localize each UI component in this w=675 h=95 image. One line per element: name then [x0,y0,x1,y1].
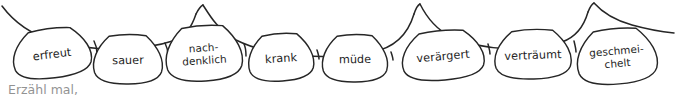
connector-4 [317,50,319,59]
garland-tag: verärgert [400,27,486,83]
garland-tag: geschmei-chelt [574,25,659,87]
connector-5 [391,52,393,60]
tag-sauer-line-0: sauer [112,54,144,68]
string-peak-2 [414,4,420,14]
garland-tag: müde [322,34,388,83]
tag-vertraeumt-label: verträumt [504,48,562,63]
caption-cropped-region: Erzähl mal, [0,84,675,95]
garland-tag: erfreut [10,24,94,83]
tag-vertraeumt-line-0: verträumt [504,48,562,63]
string-peak-1 [196,5,203,14]
garland-tag: verträumt [494,28,572,80]
tag-krank-label: krank [265,51,298,66]
garland-illustration: erfreutsauernach-denklichkrankmüdeverärg… [0,0,675,95]
garland-tag: sauer [93,34,163,85]
connector-7 [574,41,576,52]
garland-tag: krank [247,31,315,83]
caption-text: Erzähl mal, [8,84,78,95]
garland-tags-layer: erfreutsauernach-denklichkrankmüdeverärg… [10,23,659,87]
string-peak-3 [588,3,594,12]
tag-geschmeichelt-line-1: chelt [604,56,631,70]
tag-sauer-label: sauer [112,54,144,68]
connector-6 [488,44,490,54]
garland-tag: nach-denklich [164,23,244,84]
tag-muede-label: müde [339,53,372,67]
tag-krank-line-0: krank [265,51,298,66]
tag-muede-line-0: müde [339,53,372,67]
connector-3 [244,44,246,56]
illustration-canvas: erfreutsauernach-denklichkrankmüdeverärg… [0,0,675,95]
